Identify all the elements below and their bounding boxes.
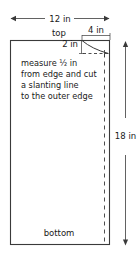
- corner-depth-label: 2 in: [62, 39, 78, 49]
- arrowhead-left-icon: [11, 16, 17, 21]
- instruction-line-3: a slanting line: [21, 80, 79, 90]
- bottom-edge-label: bottom: [44, 228, 75, 238]
- instruction-line-1: measure ½ in: [21, 58, 77, 68]
- corner-width-label: 4 in: [88, 25, 104, 35]
- arrowhead-right-icon: [104, 16, 110, 21]
- arrowhead-up-icon: [123, 41, 128, 47]
- height-dimension-arrow: [123, 41, 128, 246]
- arrowhead-down-icon: [123, 240, 128, 246]
- fabric-cutting-diagram: 12 in top 4 in 2 in: [0, 0, 140, 258]
- width-dimension-label: 12 in: [49, 14, 70, 24]
- diagram-canvas: 12 in top 4 in 2 in: [0, 0, 140, 258]
- height-dimension-label: 18 in: [115, 131, 136, 141]
- top-edge-label: top: [52, 28, 66, 38]
- instruction-line-4: to the outer edge: [21, 91, 93, 101]
- instruction-line-2: from edge and cut: [21, 69, 97, 79]
